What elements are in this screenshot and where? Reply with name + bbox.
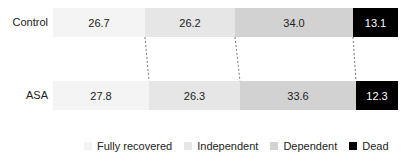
swatch-icon xyxy=(349,142,357,150)
connector-lines xyxy=(0,0,412,157)
swatch-icon xyxy=(270,142,278,150)
legend-item-fully-recovered: Fully recovered xyxy=(84,140,172,152)
legend-item-dependent: Dependent xyxy=(270,140,337,152)
legend-label: Fully recovered xyxy=(97,140,172,152)
legend-label: Dependent xyxy=(283,140,337,152)
legend: Fully recovered Independent Dependent De… xyxy=(84,140,401,152)
legend-label: Independent xyxy=(197,140,258,152)
swatch-icon xyxy=(184,142,192,150)
swatch-icon xyxy=(84,142,92,150)
legend-item-independent: Independent xyxy=(184,140,258,152)
legend-item-dead: Dead xyxy=(349,140,388,152)
legend-label: Dead xyxy=(362,140,388,152)
